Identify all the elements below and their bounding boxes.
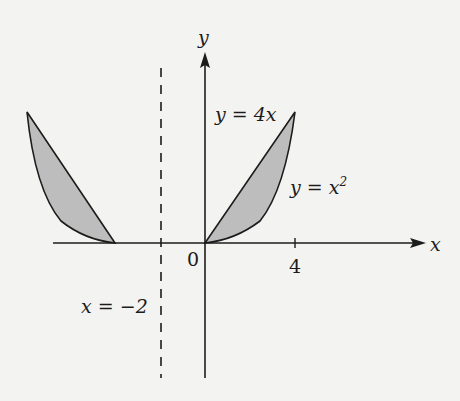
x-axis-label: x — [430, 233, 441, 255]
shaded-region-right — [205, 112, 295, 243]
parabola-label: y = x2 — [289, 175, 347, 198]
origin-label: 0 — [187, 248, 199, 270]
line-label-y-4x: y = 4x — [214, 103, 277, 125]
asymptote-label: x = −2 — [81, 295, 148, 317]
x-tick-label-4: 4 — [289, 255, 301, 277]
shaded-region-left — [27, 112, 115, 243]
y-axis-label: y — [197, 26, 209, 48]
region-diagram: y x 0 4 y = 4x y = x2 x = −2 — [0, 0, 460, 401]
